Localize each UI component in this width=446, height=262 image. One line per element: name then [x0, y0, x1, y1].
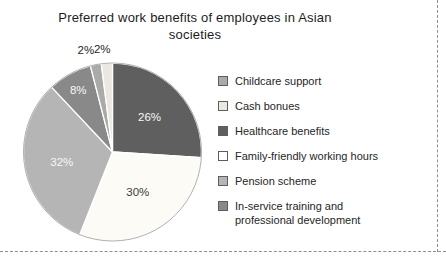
legend-item-childcare-support: Childcare support: [218, 74, 393, 88]
chart-legend: Childcare supportCash bonuesHealthcare b…: [218, 74, 393, 227]
legend-item-in-service-training-and-professional-development: In-service training and professional dev…: [218, 199, 393, 227]
legend-swatch-healthcare-benefits: [218, 126, 228, 136]
pie-label-cash-bonues: 2%: [94, 43, 111, 55]
pie-label-childcare-support: 2%: [77, 44, 94, 56]
legend-swatch-in-service-training-and-professional-development: [218, 201, 228, 211]
legend-item-label: Family-friendly working hours: [235, 149, 378, 163]
legend-item-pension-scheme: Pension scheme: [218, 174, 393, 188]
pie-label-healthcare-benefits: 26%: [138, 111, 161, 123]
legend-swatch-family-friendly-working-hours: [218, 151, 228, 161]
legend-item-label: Healthcare benefits: [235, 124, 330, 138]
legend-item-label: Childcare support: [235, 74, 321, 88]
pie-label-family-friendly-working-hours: 30%: [126, 186, 149, 198]
page-border-bottom: [0, 251, 446, 252]
legend-item-label: Pension scheme: [235, 174, 316, 188]
page-border-right: [437, 0, 438, 252]
legend-swatch-cash-bonues: [218, 101, 228, 111]
pie-label-pension-scheme: 32%: [50, 156, 73, 168]
legend-item-label: In-service training and professional dev…: [235, 199, 393, 227]
legend-item-family-friendly-working-hours: Family-friendly working hours: [218, 149, 393, 163]
legend-swatch-childcare-support: [218, 76, 228, 86]
pie-slice-healthcare-benefits: [113, 63, 202, 158]
pie-label-in-service-training-and-professional-development: 8%: [70, 84, 87, 96]
document-page: Preferred work benefits of employees in …: [0, 0, 446, 262]
legend-item-label: Cash bonues: [235, 99, 300, 113]
legend-item-cash-bonues: Cash bonues: [218, 99, 393, 113]
legend-swatch-pension-scheme: [218, 176, 228, 186]
legend-item-healthcare-benefits: Healthcare benefits: [218, 124, 393, 138]
